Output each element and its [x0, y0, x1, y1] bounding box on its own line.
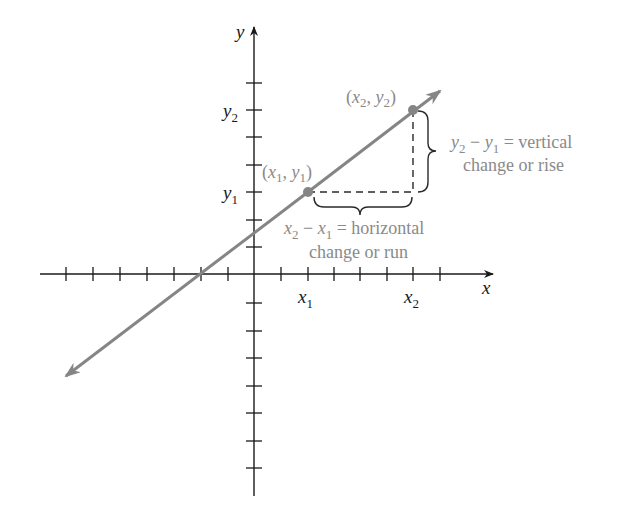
- y-axis-label: y: [234, 21, 245, 42]
- y2-tick-label: y2: [221, 100, 238, 125]
- point-2-label: (x2, y2): [346, 87, 396, 110]
- x2-tick-label: x2: [403, 286, 419, 311]
- horizontal-brace: [314, 197, 412, 215]
- x1-tick-label: x1: [297, 286, 313, 311]
- point-1: [303, 187, 313, 197]
- point-1-label: (x1, y1): [262, 162, 312, 185]
- vertical-change-line2: change or rise: [463, 155, 564, 175]
- vertical-change-line1: y2 − y1 = vertical: [449, 132, 572, 156]
- slope-diagram: x y y2 y1 x1 x2 (x1, y1) (x2, y2) y2 − y…: [0, 0, 624, 523]
- horizontal-change-line2: change or run: [309, 242, 408, 262]
- point-2: [408, 105, 418, 115]
- horizontal-change-line1: x2 − x1 = horizontal: [283, 218, 424, 242]
- y1-tick-label: y1: [221, 182, 238, 207]
- x-axis-label: x: [481, 277, 491, 298]
- vertical-brace: [418, 111, 436, 192]
- line-backward: [66, 192, 308, 376]
